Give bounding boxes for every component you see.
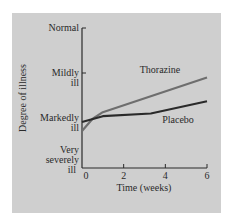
series-label-placebo: Placebo [162,114,194,125]
y-level-label: ill [71,122,80,133]
y-level-label: ill [71,77,80,88]
x-tick-label: 2 [121,170,126,181]
x-tick-label: 0 [84,170,89,181]
y-level-label: ill [68,164,77,175]
y-axis-title: Degree of illness [17,64,28,132]
line-chart: 0246VeryseverelyillMarkedlyillMildlyillN… [0,0,233,220]
y-level-label: Normal [48,22,79,33]
series-label-thorazine: Thorazine [140,64,181,75]
x-tick-label: 4 [163,170,168,181]
x-axis-title: Time (weeks) [117,182,172,194]
x-tick-label: 6 [205,170,210,181]
